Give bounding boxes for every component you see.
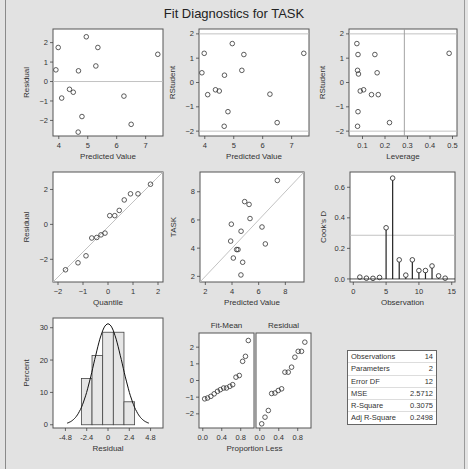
x-tick-label: 4 [57, 141, 61, 150]
x-tick-label: 8 [283, 287, 287, 296]
y-tick-label: 2 [44, 38, 48, 47]
x-tick-label: 4.8 [145, 433, 155, 442]
data-point [430, 264, 435, 269]
stat-row-observations: Observations14 [348, 351, 436, 363]
y-tick-label: 2 [340, 29, 344, 38]
x-axis-label: Leverage [386, 152, 420, 161]
x-tick-label: 0 [106, 433, 110, 442]
chart-resid-vs-pred: −2−10124567Predicted ValueResidual [22, 29, 163, 161]
x-axis-label: Proportion Less [226, 444, 282, 453]
x-tick-label: −1 [79, 287, 88, 296]
y-tick-label: 1 [190, 359, 194, 368]
y-axis-label: Residual [22, 67, 31, 98]
plot-area [199, 29, 309, 136]
chart-rstudent-vs-leverage: −2−10120.10.20.30.40.5LeverageRStudent [318, 29, 458, 161]
x-tick-label: 0 [351, 287, 355, 296]
y-tick-label: 30 [40, 323, 48, 332]
y-tick-label: 0 [44, 420, 48, 429]
x-tick-label: 7 [290, 141, 294, 150]
x-tick-label: 4 [203, 141, 207, 150]
x-tick-label: 0.0 [198, 433, 208, 442]
histogram-bar [103, 332, 114, 425]
x-axis-label: Residual [92, 444, 123, 453]
histogram-bar [81, 379, 92, 425]
y-tick-label: 6 [191, 216, 195, 225]
y-axis-label: TASK [169, 216, 178, 237]
y-tick-label: −1 [39, 97, 48, 106]
chart-residual-fit-spread: Fit-Mean−2−10120.00.40.8Residual0.00.40.… [185, 321, 311, 453]
chart-qq-residual: −202−2−1012QuantileResidual [22, 172, 163, 307]
y-tick-label: 0.4 [335, 213, 345, 222]
fit-statistics-table: Observations14 Parameters2 Error DF12 MS… [347, 350, 437, 425]
y-tick-label: 0 [190, 78, 194, 87]
x-tick-label: 0.1 [357, 141, 367, 150]
x-axis-label: Quantile [93, 298, 123, 307]
y-tick-label: −1 [185, 393, 194, 402]
y-tick-label: 1 [190, 54, 194, 63]
x-tick-label: -2.4 [80, 433, 93, 442]
x-tick-label: 0.0 [255, 433, 265, 442]
x-axis-label: Observation [381, 298, 424, 307]
x-tick-label: −2 [54, 287, 63, 296]
histogram-bar [124, 402, 135, 425]
y-tick-label: 2 [190, 29, 194, 38]
y-tick-label: −1 [335, 102, 344, 111]
chart-residual-histogram: 0102030-4.8-2.402.44.8ResidualPercent [22, 318, 163, 453]
panel-label: Fit-Mean [211, 321, 243, 330]
x-tick-label: 5 [384, 287, 388, 296]
y-tick-label: 2 [44, 185, 48, 194]
data-point [364, 276, 369, 281]
x-tick-label: 0.3 [402, 141, 412, 150]
x-axis-label: Predicted Value [80, 152, 136, 161]
data-point [403, 273, 408, 278]
x-axis-label: Predicted Value [224, 298, 280, 307]
y-axis-label: RStudent [168, 65, 177, 99]
y-tick-label: 0.6 [335, 183, 345, 192]
stat-row-error-df: Error DF12 [348, 376, 436, 388]
x-tick-label: 0.4 [425, 141, 435, 150]
stat-row-mse: MSE2.5712 [348, 388, 436, 400]
x-axis-label: Predicted Value [226, 152, 282, 161]
x-tick-label: 15 [448, 287, 456, 296]
y-tick-label: −1 [185, 102, 194, 111]
y-tick-label: 2 [191, 272, 195, 281]
y-tick-label: −2 [185, 127, 194, 136]
stat-row-parameters: Parameters2 [348, 363, 436, 375]
data-point [410, 258, 415, 263]
y-tick-label: −2 [39, 255, 48, 264]
histogram-bar [113, 332, 124, 425]
y-tick-label: 0 [190, 376, 194, 385]
x-tick-label: 0.5 [447, 141, 457, 150]
data-point [371, 276, 376, 281]
x-tick-label: 0.2 [380, 141, 390, 150]
x-tick-label: 5 [86, 141, 90, 150]
data-point [423, 268, 428, 273]
chart-task-vs-pred: 24682468Predicted ValueTASK [169, 172, 304, 307]
y-tick-label: −2 [39, 116, 48, 125]
x-tick-label: 7 [144, 141, 148, 150]
data-point [417, 268, 422, 273]
x-tick-label: 0.4 [274, 433, 284, 442]
y-tick-label: 0 [340, 78, 344, 87]
stat-row-adj-r-square: Adj R-Square0.2498 [348, 412, 436, 423]
data-point [397, 258, 402, 263]
plot-area [350, 172, 455, 282]
y-tick-label: 10 [40, 388, 48, 397]
x-tick-label: 5 [232, 141, 236, 150]
y-tick-label: 0 [44, 220, 48, 229]
y-axis-label: Percent [22, 358, 31, 386]
data-point [436, 274, 441, 279]
y-axis-label: RStudent [318, 65, 327, 99]
y-tick-label: 4 [191, 244, 195, 253]
y-tick-label: 0 [44, 77, 48, 86]
x-tick-label: 0.4 [217, 433, 227, 442]
plot-area [256, 333, 311, 428]
plot-area [199, 333, 254, 428]
x-tick-label: -4.8 [59, 433, 72, 442]
x-tick-label: 6 [257, 287, 261, 296]
x-tick-label: 2 [156, 287, 160, 296]
chart-cooks-d: 0.00.20.40.6051015ObservationCook's D [319, 172, 456, 307]
y-tick-label: −2 [335, 127, 344, 136]
x-tick-label: 1 [131, 287, 135, 296]
y-tick-label: 0.0 [335, 275, 345, 284]
